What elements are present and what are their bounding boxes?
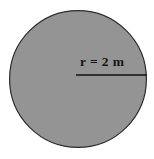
circle-diagram-svg xyxy=(0,0,154,159)
radius-label: r = 2 m xyxy=(80,55,124,69)
shaded-circle xyxy=(10,11,147,148)
geometry-figure-canvas: r = 2 m xyxy=(0,0,154,159)
